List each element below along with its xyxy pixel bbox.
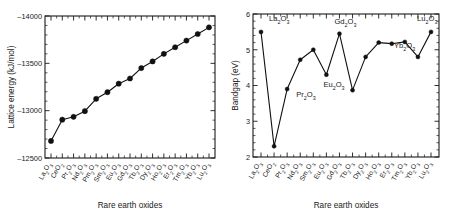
x-axis-category-label: Ho2O3 bbox=[364, 160, 382, 182]
x-axis-title: Rare earth oxides bbox=[98, 201, 163, 210]
data-point-marker bbox=[298, 58, 302, 62]
data-point-marker bbox=[337, 32, 341, 36]
data-point-marker bbox=[48, 138, 53, 143]
y-axis-tick-label: 5 bbox=[246, 46, 250, 55]
data-point-marker bbox=[71, 114, 76, 119]
y-axis-tick-label: 4 bbox=[246, 81, 250, 90]
x-axis-category-label: Lu2O3 bbox=[417, 160, 434, 181]
plot-frame bbox=[253, 14, 439, 157]
data-point-marker bbox=[173, 45, 178, 50]
data-point-marker bbox=[351, 88, 355, 92]
data-point-marker bbox=[206, 25, 211, 30]
data-point-annotation: Pr2O3 bbox=[296, 90, 316, 101]
x-axis-title: Rare earth oxides bbox=[314, 201, 379, 210]
y-axis-tick-label: 2 bbox=[246, 153, 250, 162]
data-point-marker bbox=[94, 96, 99, 101]
data-point-marker bbox=[377, 41, 381, 45]
x-axis-category-label: Yb2O3 bbox=[404, 160, 421, 182]
data-series-line bbox=[51, 27, 209, 141]
data-point-marker bbox=[184, 38, 189, 43]
data-point-annotation: La2O3 bbox=[269, 14, 289, 25]
data-point-marker bbox=[116, 81, 121, 86]
data-point-marker bbox=[285, 87, 289, 91]
data-point-marker bbox=[105, 90, 110, 95]
data-point-annotation: Gd2O3 bbox=[334, 17, 356, 28]
y-axis-tick-label: 3 bbox=[246, 117, 250, 126]
data-point-marker bbox=[161, 51, 166, 56]
data-point-marker bbox=[195, 31, 200, 36]
data-point-marker bbox=[272, 144, 276, 148]
y-axis-tick-label: –12500 bbox=[17, 154, 42, 163]
data-point-marker bbox=[259, 30, 263, 34]
y-axis-tick-label: –13500 bbox=[17, 59, 42, 68]
data-point-marker bbox=[311, 48, 315, 52]
data-point-marker bbox=[324, 73, 328, 77]
y-axis-tick-label: –14000 bbox=[17, 12, 42, 21]
data-point-annotation: Eu2O3 bbox=[323, 80, 344, 91]
data-point-marker bbox=[364, 55, 368, 59]
x-axis-category-label: Gd2O3 bbox=[325, 160, 343, 182]
chart-canvas: 23456La2O3CeO2Pr2O3Nd2O3Sm2O3Eu2O3Gd2O3T… bbox=[227, 0, 454, 217]
data-point-marker bbox=[127, 76, 132, 81]
data-point-marker bbox=[82, 109, 87, 114]
x-axis-category-label: La2O3 bbox=[247, 160, 264, 181]
data-point-marker bbox=[429, 30, 433, 34]
data-point-marker bbox=[416, 55, 420, 59]
x-axis-category-label: Tm2O3 bbox=[390, 160, 408, 183]
chart-panel-lattice-energy: –12500–13000–13500–14000La2O3CeO2Pr2O3Nd… bbox=[0, 0, 227, 217]
y-axis-title: Lattice energy (kJ/mol) bbox=[7, 45, 16, 128]
data-point-marker bbox=[150, 59, 155, 64]
data-point-annotation: Lu2O3 bbox=[417, 14, 437, 25]
y-axis-title: Bandgap (eV) bbox=[231, 60, 240, 111]
figure-two-panel-chart: –12500–13000–13500–14000La2O3CeO2Pr2O3Nd… bbox=[0, 0, 454, 217]
data-point-marker bbox=[60, 117, 65, 122]
y-axis-tick-label: –13000 bbox=[17, 106, 42, 115]
chart-canvas: –12500–13000–13500–14000La2O3CeO2Pr2O3Nd… bbox=[0, 0, 227, 217]
plot-frame bbox=[45, 16, 215, 158]
chart-panel-bandgap: 23456La2O3CeO2Pr2O3Nd2O3Sm2O3Eu2O3Gd2O3T… bbox=[227, 0, 454, 217]
data-point-marker bbox=[139, 65, 144, 70]
y-axis-tick-label: 6 bbox=[246, 10, 250, 19]
